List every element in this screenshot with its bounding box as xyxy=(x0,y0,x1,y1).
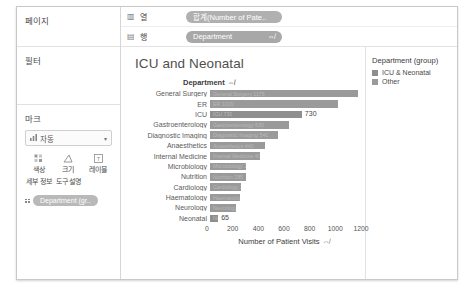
bar-row[interactable]: AnaestheticsAnaesthetics 440 xyxy=(135,141,361,150)
bar-row-label: Diagnostic Imaging xyxy=(135,132,210,139)
color-icon xyxy=(34,153,43,164)
marks-card-title: 마크 xyxy=(25,112,112,124)
bar-row[interactable]: NeurologyNeurology 205 xyxy=(135,203,361,212)
bar[interactable]: Internal Medicine 400 xyxy=(210,152,260,160)
pages-card-title: 페이지 xyxy=(25,14,112,26)
rows-shelf-label: 행 xyxy=(136,31,186,42)
bar[interactable]: Anaesthetics 440 xyxy=(210,142,265,150)
x-axis-tick: 0 xyxy=(205,225,209,232)
bar[interactable]: Haematology 235 xyxy=(210,194,240,202)
rows-pill-label: Department xyxy=(193,32,232,41)
marks-color-button[interactable]: 색상 xyxy=(25,153,53,174)
x-axis-title[interactable]: Number of Patient Visits ⇎ xyxy=(207,237,361,246)
bar-inner-label: ER 1020 xyxy=(210,101,234,107)
bar-inner-label: Internal Medicine 400 xyxy=(210,153,260,159)
bar-track: Internal Medicine 400 xyxy=(210,151,361,160)
legend-label: Other xyxy=(382,78,400,85)
rows-shelf-pill[interactable]: Department ⇎ xyxy=(186,31,282,43)
bar-row[interactable]: HaematologyHaematology 235 xyxy=(135,193,361,202)
x-axis-tick: 1200 xyxy=(353,225,368,232)
bar[interactable]: ICU 730 xyxy=(210,111,302,119)
bar-row-label: ICU xyxy=(135,111,210,118)
marks-department-pill[interactable]: Department (gr.. xyxy=(33,195,98,206)
marks-tooltip-button[interactable]: 도구 설명 xyxy=(55,178,83,186)
bar-row-label: Neonatal xyxy=(135,215,210,222)
bar-inner-label: Nutrition 285 xyxy=(210,174,243,180)
viz-pane: ICU and Neonatal Department ⇎ General Su… xyxy=(121,47,365,279)
columns-shelf[interactable]: ▥ 열 합계(Number of Pate.. xyxy=(121,7,457,26)
rows-shelf[interactable]: ▤ 행 Department ⇎ xyxy=(121,26,457,46)
bar[interactable]: Neurology 205 xyxy=(210,204,236,212)
columns-shelf-pill[interactable]: 합계(Number of Pate.. xyxy=(186,11,282,23)
columns-shelf-label: 열 xyxy=(136,11,186,22)
legend-swatch xyxy=(372,70,378,76)
tableau-worksheet-window: 페이지 필터 마크 자동 ▾ 색상 xyxy=(16,6,458,280)
bar-track: Diagnostic Imaging 540 xyxy=(210,131,361,140)
marks-detail-label: 세부 정보 xyxy=(26,178,52,186)
bar-mark-icon xyxy=(30,134,37,143)
bar-row-label: Anaesthetics xyxy=(135,142,210,149)
bar-track: Haematology 235 xyxy=(210,193,361,202)
bar-row[interactable]: NutritionNutrition 285 xyxy=(135,172,361,181)
viz-and-legend: ICU and Neonatal Department ⇎ General Su… xyxy=(121,47,457,279)
bar-row[interactable]: ERER 1020 xyxy=(135,99,361,108)
bar-inner-label: Microbiology 290 xyxy=(210,163,246,169)
legend-items: ICU & NeonatalOther xyxy=(372,69,451,85)
bar-row[interactable]: General SurgeryGeneral Surgery 1175 xyxy=(135,89,361,98)
legend-item[interactable]: ICU & Neonatal xyxy=(372,69,451,76)
filters-card-title: 필터 xyxy=(25,54,112,66)
bar-row[interactable]: CardiologyCardiology 250 xyxy=(135,183,361,192)
legend-item[interactable]: Other xyxy=(372,78,451,85)
bar-inner-label: General Surgery 1175 xyxy=(210,91,265,97)
bar[interactable]: General Surgery 1175 xyxy=(210,90,358,98)
department-field-header[interactable]: Department ⇎ xyxy=(183,78,361,87)
bar-inner-label: Gastroenterology 630 xyxy=(210,122,264,128)
bar-inner-label: ICU 730 xyxy=(210,111,232,117)
bar[interactable]: Microbiology 290 xyxy=(210,163,246,171)
sort-icon: ⇎ xyxy=(323,238,330,245)
bar[interactable]: Neonatal 65 xyxy=(210,215,218,223)
bar-row[interactable]: Internal MedicineInternal Medicine 400 xyxy=(135,151,361,160)
x-axis-tick: 800 xyxy=(304,225,315,232)
bar-row-label: Cardiology xyxy=(135,184,210,191)
marks-card: 마크 자동 ▾ 색상 xyxy=(17,105,120,279)
x-axis: 020040060080010001200 xyxy=(207,223,361,237)
bar-row[interactable]: MicrobiologyMicrobiology 290 xyxy=(135,162,361,171)
bar-row[interactable]: ICUICU 730730 xyxy=(135,110,361,119)
bar-inner-label: Haematology 235 xyxy=(210,195,240,201)
bar-track: ICU 730730 xyxy=(210,110,361,119)
left-panel: 페이지 필터 마크 자동 ▾ 색상 xyxy=(17,7,121,279)
mark-type-label: 자동 xyxy=(40,133,54,144)
mark-type-dropdown[interactable]: 자동 ▾ xyxy=(25,130,112,146)
x-axis-title-label: Number of Patient Visits xyxy=(238,237,319,246)
bar-track: Neonatal 6565 xyxy=(210,214,361,223)
bar-track: Gastroenterology 630 xyxy=(210,120,361,129)
bar-track: Anaesthetics 440 xyxy=(210,141,361,150)
marks-tooltip-label: 도구 설명 xyxy=(56,178,82,186)
pages-card: 페이지 xyxy=(17,7,120,47)
size-icon xyxy=(63,153,73,164)
bar-row[interactable]: Diagnostic ImagingDiagnostic Imaging 540 xyxy=(135,131,361,140)
marks-pill-row: Department (gr.. xyxy=(25,195,112,206)
legend-swatch xyxy=(372,79,378,85)
svg-text:T: T xyxy=(96,156,100,162)
bar-value-label: 730 xyxy=(305,110,317,117)
bar[interactable]: Cardiology 250 xyxy=(210,183,241,191)
bar[interactable]: Diagnostic Imaging 540 xyxy=(210,131,278,139)
page-title: ICU and Neonatal xyxy=(135,56,361,71)
bar-row[interactable]: GastroenterologyGastroenterology 630 xyxy=(135,120,361,129)
marks-size-button[interactable]: 크기 xyxy=(55,153,83,174)
marks-label-label: 레이블 xyxy=(89,166,107,174)
bar[interactable]: Nutrition 285 xyxy=(210,173,246,181)
marks-size-label: 크기 xyxy=(62,166,74,174)
marks-detail-button[interactable]: 세부 정보 xyxy=(25,178,53,186)
bar[interactable]: ER 1020 xyxy=(210,100,338,108)
bar-inner-label: Neonatal 65 xyxy=(210,215,218,221)
worksheet-area: ▥ 열 합계(Number of Pate.. ▤ 행 Department ⇎… xyxy=(121,7,457,279)
bar-row-label: ER xyxy=(135,101,210,108)
bar[interactable]: Gastroenterology 630 xyxy=(210,121,289,129)
bar-track: Neurology 205 xyxy=(210,203,361,212)
bar-row-label: Haematology xyxy=(135,194,210,201)
marks-label-button[interactable]: T 레이블 xyxy=(84,153,112,174)
bar-row[interactable]: NeonatalNeonatal 6565 xyxy=(135,214,361,223)
